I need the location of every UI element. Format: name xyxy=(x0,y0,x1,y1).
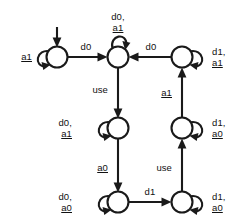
diagram-canvas: a1 d0, a1 d1, a1 d0, a1 d1, a0 d0, a0 d1… xyxy=(0,0,242,224)
transition-s0-s1 xyxy=(68,53,108,62)
transition-s6-s4 xyxy=(178,139,187,192)
transition-label-s6-s4: use xyxy=(142,163,172,174)
state-top-right[interactable] xyxy=(172,47,193,68)
self-loop-label-s3: d0, a1 xyxy=(42,117,72,139)
state-top-middle[interactable] xyxy=(108,47,129,68)
transition-s3-s5 xyxy=(114,139,123,193)
transition-label-s5-s6: d1 xyxy=(138,187,162,198)
state-top-left[interactable] xyxy=(47,47,68,68)
state-bottom-left[interactable] xyxy=(108,192,129,213)
initial-state-arrow xyxy=(53,27,62,48)
transition-s1-s3 xyxy=(114,68,123,119)
transition-label-s0-s1: d0 xyxy=(74,42,98,53)
transition-label-s1-s3: use xyxy=(78,85,108,96)
transition-s4-s2 xyxy=(178,68,187,118)
transition-s5-s6 xyxy=(129,198,172,207)
self-loop-label-s1: d0, a1 xyxy=(100,11,136,33)
transition-label-s2-s1: d0 xyxy=(139,42,163,53)
state-bottom-right[interactable] xyxy=(172,192,193,213)
transition-label-s3-s5: a0 xyxy=(80,163,108,174)
transition-s2-s1 xyxy=(129,53,172,62)
state-middle-left[interactable] xyxy=(108,118,129,139)
state-machine-svg xyxy=(0,0,242,224)
state-middle-right[interactable] xyxy=(172,118,193,139)
self-loop-label-s0: a1 xyxy=(6,52,32,63)
self-loop-label-s5: d0, a0 xyxy=(42,191,72,213)
self-loop-label-s4: d1, a0 xyxy=(212,117,242,139)
self-loop-label-s2: d1, a1 xyxy=(212,46,242,68)
self-loop-label-s6: d1, a0 xyxy=(212,191,242,213)
transition-label-s4-s2: a1 xyxy=(144,88,172,99)
